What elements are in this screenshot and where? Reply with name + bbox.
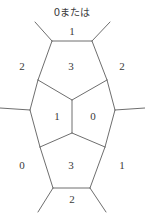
edge-right-horizontal-stub: [115, 108, 145, 110]
edge-bottom-right-slant: [90, 147, 105, 188]
edge-low-right-inner: [72, 133, 105, 147]
edge-left-horizontal-stub: [0, 108, 30, 110]
edge-top-left-stub: [35, 22, 52, 41]
region-label-top-outer: 1: [69, 26, 75, 37]
edge-bottom-left-stub: [38, 188, 53, 212]
edge-bottom-left-slant: [40, 147, 53, 188]
edge-upper-left-outer: [30, 80, 38, 110]
edge-upper-right-outer: [107, 80, 115, 110]
edge-top-right-stub: [92, 22, 110, 41]
edge-bottom-right-stub: [90, 188, 106, 212]
region-label-bottom-outer: 2: [69, 194, 75, 205]
region-label-upper-right: 2: [119, 61, 125, 72]
top-annotation: 0または: [54, 7, 90, 18]
edge-group: [0, 22, 145, 212]
region-label-center-right: 0: [90, 111, 96, 122]
region-label-lower-middle: 3: [68, 160, 74, 171]
region-label-upper-middle: 3: [68, 61, 74, 72]
region-label-center-left: 1: [54, 111, 60, 122]
edge-low-left-inner: [40, 133, 72, 147]
edge-mid-left-inner: [38, 80, 72, 100]
graph-figure: 1232100312 0または: [0, 0, 145, 215]
edge-lower-left-outer: [30, 110, 40, 147]
edge-upper-right-slant: [92, 41, 107, 80]
region-label-upper-left: 2: [19, 61, 25, 72]
edge-lower-right-outer: [105, 110, 115, 147]
region-label-lower-right: 1: [119, 160, 125, 171]
region-label-lower-left: 0: [19, 160, 25, 171]
edge-upper-left-slant: [38, 41, 52, 80]
edge-mid-right-inner: [72, 80, 107, 100]
